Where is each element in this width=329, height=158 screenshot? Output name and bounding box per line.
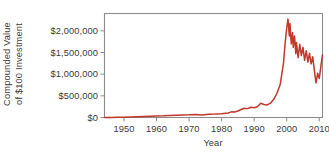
plot-area	[0, 0, 329, 158]
x-axis-ticks	[124, 118, 319, 122]
y-axis-ticks	[101, 31, 105, 118]
chart-figure: Compounded Value of $100 Investment $0$5…	[0, 0, 329, 158]
